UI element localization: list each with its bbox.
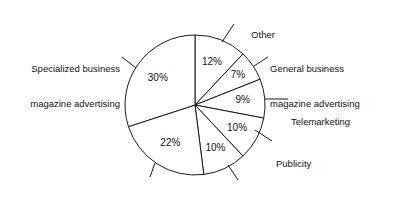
pie-label-publicity: Publicity <box>276 135 386 193</box>
pie-chart-page: 12%7%9%10%10%22%30% Other General busine… <box>0 0 396 203</box>
leader-line-specialized-business <box>122 57 136 68</box>
leader-line-trade-shows <box>150 163 155 177</box>
pie-label-direct-mail: Direct mail <box>208 181 282 203</box>
pie-label-specialized-business-magazine-advertising: Specialized business magazine advertisin… <box>2 40 120 132</box>
pie-label-other-line-1: Other <box>228 29 298 41</box>
pie-value-label-trade-shows: 22% <box>160 137 180 148</box>
pie-label-specialized-business-line-2: magazine advertising <box>2 98 120 110</box>
pie-label-general-business-line-1: General business <box>270 63 396 75</box>
pie-label-trade-shows-line-1: Trade shows <box>76 201 150 203</box>
pie-label-telemarketing-line-1: Telemarketing <box>291 116 395 128</box>
pie-value-label-publicity: 10% <box>227 122 247 133</box>
pie-value-label-other: 12% <box>202 56 222 67</box>
pie-value-label-telemarketing: 9% <box>236 94 251 105</box>
pie-label-publicity-line-1: Publicity <box>276 158 386 170</box>
pie-value-label-specialized-business-magazine-advertising: 30% <box>148 72 168 83</box>
leader-line-direct-mail <box>228 165 238 180</box>
pie-value-label-general-business-magazine-advertising: 7% <box>231 69 246 80</box>
pie-label-trade-shows: Trade shows <box>76 178 150 203</box>
pie-value-label-direct-mail: 10% <box>205 142 225 153</box>
pie-label-specialized-business-line-1: Specialized business <box>2 63 120 75</box>
